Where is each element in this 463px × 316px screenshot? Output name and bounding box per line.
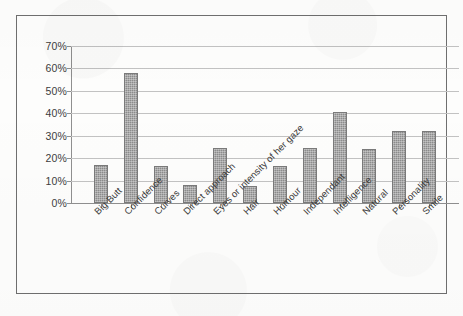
y-tick-label: 30% bbox=[23, 130, 67, 142]
y-tick-label: 0% bbox=[23, 197, 67, 209]
plot-area bbox=[71, 46, 459, 203]
x-tick-mark bbox=[131, 204, 132, 208]
x-tick-mark bbox=[250, 204, 251, 208]
gridline-60 bbox=[71, 68, 459, 69]
x-tick-mark bbox=[220, 204, 221, 208]
x-tick-mark bbox=[161, 204, 162, 208]
x-tick-mark bbox=[310, 204, 311, 208]
bar bbox=[154, 166, 168, 203]
x-tick-mark bbox=[399, 204, 400, 208]
x-tick-mark bbox=[101, 204, 102, 208]
bar bbox=[124, 73, 138, 203]
bar bbox=[213, 148, 227, 203]
bar bbox=[362, 149, 376, 203]
chart-page: 70% 60% 50% 40% 30% 20% 10% 0% bbox=[0, 0, 463, 316]
bar bbox=[94, 165, 108, 203]
y-tick-label: 40% bbox=[23, 107, 67, 119]
y-tick-label: 20% bbox=[23, 152, 67, 164]
bar bbox=[183, 185, 197, 203]
x-tick-mark bbox=[340, 204, 341, 208]
x-axis-tick-marks bbox=[71, 204, 459, 209]
y-tick-label: 70% bbox=[23, 40, 67, 52]
x-tick-mark bbox=[429, 204, 430, 208]
bar bbox=[333, 112, 347, 203]
chart-frame: 70% 60% 50% 40% 30% 20% 10% 0% bbox=[16, 15, 447, 294]
y-tick-label: 60% bbox=[23, 62, 67, 74]
bar bbox=[273, 166, 287, 203]
bar bbox=[243, 186, 257, 203]
x-tick-mark bbox=[280, 204, 281, 208]
y-axis-tick-labels: 70% 60% 50% 40% 30% 20% 10% 0% bbox=[17, 16, 67, 293]
bar bbox=[422, 131, 436, 203]
x-tick-mark bbox=[369, 204, 370, 208]
y-tick-label: 50% bbox=[23, 85, 67, 97]
y-tick-label: 10% bbox=[23, 175, 67, 187]
bar bbox=[303, 148, 317, 203]
bar bbox=[392, 131, 406, 203]
gridline-70 bbox=[71, 46, 459, 47]
x-tick-mark bbox=[190, 204, 191, 208]
